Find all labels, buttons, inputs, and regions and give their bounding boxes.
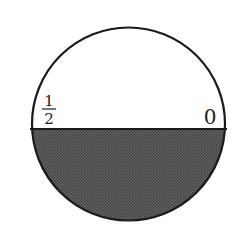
label-zero: 0	[204, 105, 217, 129]
circle-diagram: 1 2 0	[0, 0, 247, 241]
fraction-numerator: 1	[44, 92, 54, 110]
fraction-denominator: 2	[44, 110, 54, 128]
label-one-half: 1 2	[42, 92, 56, 128]
